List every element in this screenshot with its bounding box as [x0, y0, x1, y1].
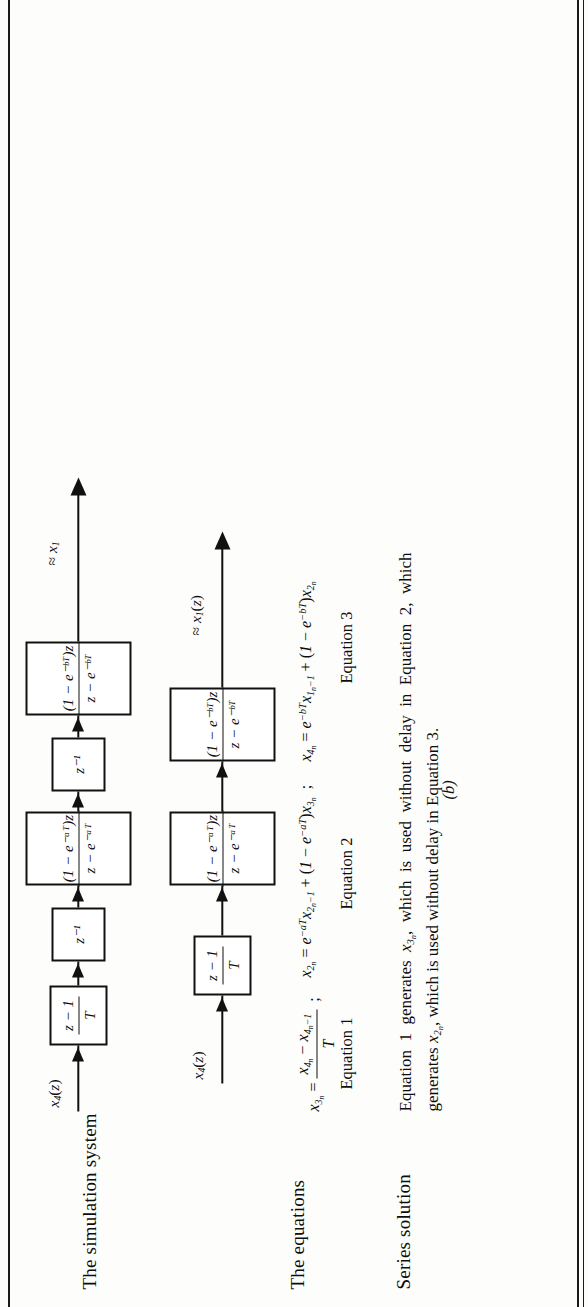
diagram-a-arrow-1 — [72, 1047, 84, 1061]
equation-3-expression: x4n = e−bTx1n−1 + (1 − e−bT)x2n — [296, 581, 317, 761]
scanned-page: The simulation system The equations Seri… — [0, 0, 588, 1307]
block-numerator: z − 1 — [202, 946, 221, 985]
diagram-b-block-lag-a[interactable]: (1 − e⁻ᵃᵀ)z z − e⁻ᵃᵀ — [169, 811, 275, 885]
block-numerator: (1 − e⁻ᵇᵀ)z — [58, 641, 77, 714]
equation-1-expression: x3n = x4n − x4n−1 T ; — [292, 993, 337, 1111]
row-label-equations: The equations — [286, 1179, 308, 1289]
block-denominator: T — [222, 946, 242, 985]
equation-2-tag: Equation 2 — [336, 837, 356, 909]
rotated-figure-canvas: The simulation system The equations Seri… — [0, 0, 588, 1307]
block-numerator: (1 − e⁻ᵃᵀ)z — [58, 810, 77, 885]
diagram-a-block-delay-1[interactable]: z⁻¹ — [51, 907, 105, 961]
block-denominator: T — [78, 996, 98, 1035]
subfigure-label-b: (b) — [438, 780, 458, 799]
diagram-a-block-lag-a[interactable]: (1 − e⁻ᵃᵀ)z z − e⁻ᵃᵀ — [25, 811, 131, 885]
diagram-a-output-label: ≈ x1 — [42, 541, 61, 565]
equation-tag-text: Equation 3 — [336, 611, 355, 683]
equation-tag-text: Equation 1 — [336, 1017, 355, 1089]
diagram-b-input-label: x4(z) — [188, 1051, 207, 1079]
diagram-b-block-differencer[interactable]: z − 1 T — [193, 935, 251, 995]
diagram-b-wire-output — [221, 539, 223, 687]
subfigure-label-text: (b) — [438, 780, 457, 799]
row-label-text: Series solution — [392, 1174, 413, 1289]
diagram-b-wire-main — [221, 753, 223, 1083]
row-label-series-solution: Series solution — [392, 1174, 414, 1289]
diagram-a-wire-output — [77, 485, 79, 641]
caption-line-1: Equation 1 generates x3n, which is used … — [392, 475, 419, 1111]
equation-3-tag: Equation 3 — [336, 611, 356, 683]
diagram-b-arrow-1 — [216, 997, 228, 1011]
diagram-a-arrow-2 — [72, 963, 84, 977]
approx-symbol: ≈ — [186, 626, 203, 635]
equation-2-expression: x2n = e−aTx2n−1 + (1 − e−aT)x3n ; — [296, 780, 317, 977]
row-label-text: The equations — [286, 1179, 307, 1289]
block-label: z⁻¹ — [69, 919, 87, 949]
equation-1-tag: Equation 1 — [336, 1017, 356, 1089]
block-numerator: z − 1 — [58, 996, 77, 1035]
block-numerator: (1 − e⁻ᵃᵀ)z — [202, 810, 221, 885]
block-numerator: (1 − e⁻ᵇᵀ)z — [202, 687, 221, 760]
diagram-a-block-delay-2[interactable]: z⁻¹ — [51, 737, 105, 791]
diagram-a-block-lag-b[interactable]: (1 − e⁻ᵇᵀ)z z − e⁻ᵇᵀ — [25, 641, 131, 715]
block-denominator: z − e⁻ᵇᵀ — [222, 687, 242, 760]
diagram-b-block-lag-b[interactable]: (1 − e⁻ᵇᵀ)z z − e⁻ᵇᵀ — [169, 687, 275, 761]
row-label-text: The simulation system — [78, 1113, 99, 1289]
approx-symbol: ≈ — [42, 556, 59, 565]
diagram-b-output-label: ≈ x1(z) — [186, 595, 205, 635]
row-label-simulation-system: The simulation system — [78, 1113, 100, 1289]
block-denominator: z − e⁻ᵇᵀ — [78, 641, 98, 714]
diagram-a-arrow-output — [70, 477, 86, 495]
equation-tag-text: Equation 2 — [336, 837, 355, 909]
diagram-b-arrow-output — [214, 531, 230, 549]
block-denominator: z − e⁻ᵃᵀ — [78, 810, 98, 885]
diagram-a-block-differencer[interactable]: z − 1 T — [49, 985, 107, 1045]
diagram-a-input-label: x4(z) — [44, 1079, 63, 1107]
block-label: z⁻¹ — [69, 749, 87, 779]
block-denominator: z − e⁻ᵃᵀ — [222, 810, 242, 885]
